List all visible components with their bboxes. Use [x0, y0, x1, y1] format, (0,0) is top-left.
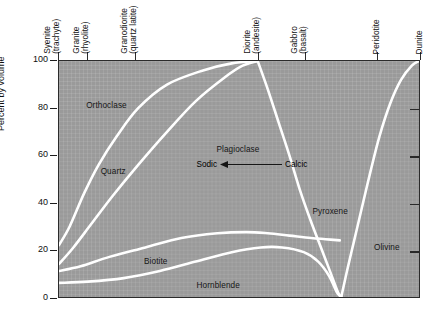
y-axis-tick — [50, 203, 57, 204]
volcanic-equivalent: (trachyte) — [53, 19, 62, 54]
y-axis-tick — [50, 155, 57, 156]
rock-type-label-peridotite: Peridotite — [372, 19, 381, 54]
rock-type-label-dunite: Dunite — [415, 30, 424, 54]
mineral-label-hornblende: Hornblende — [197, 281, 240, 290]
top-axis-rock-labels: Syenite(trachyte)Granite(rhyolite)Granod… — [0, 0, 431, 60]
rock-type-label-syenite: Syenite(trachyte) — [43, 19, 62, 54]
right-axis-tick — [410, 251, 419, 253]
y-axis-tick — [50, 60, 57, 61]
sodic-label: Sodic — [197, 160, 217, 169]
rock-type-label-granodiorite: Granodiorite(quartz latite) — [120, 6, 139, 54]
calcic-label: Calcic — [285, 160, 307, 169]
left-arrow-icon — [220, 160, 282, 169]
plagioclase-gradient-arrow: Sodic Calcic — [197, 160, 308, 169]
y-axis-tick-label: 80 — [22, 102, 48, 112]
right-axis-tick — [410, 156, 419, 158]
y-axis-tick — [50, 108, 57, 109]
volcanic-equivalent: (basalt) — [299, 26, 308, 54]
boundary-curve — [59, 232, 340, 271]
mineral-label-orthoclase: Orthoclase — [86, 101, 127, 110]
mineral-label-quartz: Quartz — [101, 167, 126, 176]
right-axis-tick — [410, 109, 419, 111]
rock-name: Peridotite — [372, 19, 381, 54]
mineral-label-biotite: Biotite — [144, 257, 167, 266]
y-axis-tick-label: 40 — [22, 197, 48, 207]
y-axis-tick-label: 100 — [22, 54, 48, 64]
rock-name: Dunite — [415, 30, 424, 54]
boundary-curves — [59, 61, 419, 297]
y-axis-tick-label: 20 — [22, 244, 48, 254]
volcanic-equivalent: (andesite) — [252, 17, 261, 54]
y-axis-tick-label: 0 — [22, 292, 48, 302]
mineral-label-plagioclase: Plagioclase — [216, 145, 259, 154]
rock-type-label-diorite: Diorite(andesite) — [243, 17, 262, 54]
volcanic-equivalent: (rhyolite) — [82, 22, 91, 54]
boundary-curve — [341, 61, 419, 297]
rock-type-label-granite: Granite(rhyolite) — [72, 22, 91, 54]
volcanic-equivalent: (quartz latite) — [130, 6, 139, 54]
chart-root: Syenite(trachyte)Granite(rhyolite)Granod… — [0, 0, 431, 313]
right-axis-tick — [410, 204, 419, 206]
y-axis-tick-label: 60 — [22, 149, 48, 159]
boundary-curve — [258, 61, 342, 297]
plot-area: OrthoclaseQuartzPlagioclaseBiotiteHornbl… — [58, 60, 420, 298]
mineral-label-pyroxene: Pyroxene — [312, 207, 347, 216]
y-axis-tick — [50, 298, 57, 299]
rock-type-label-gabbro: Gabbro(basalt) — [290, 26, 309, 54]
y-axis-title: Percent by volume — [0, 56, 6, 131]
y-axis-tick — [50, 250, 57, 251]
mineral-label-olivine: Olivine — [374, 243, 400, 252]
